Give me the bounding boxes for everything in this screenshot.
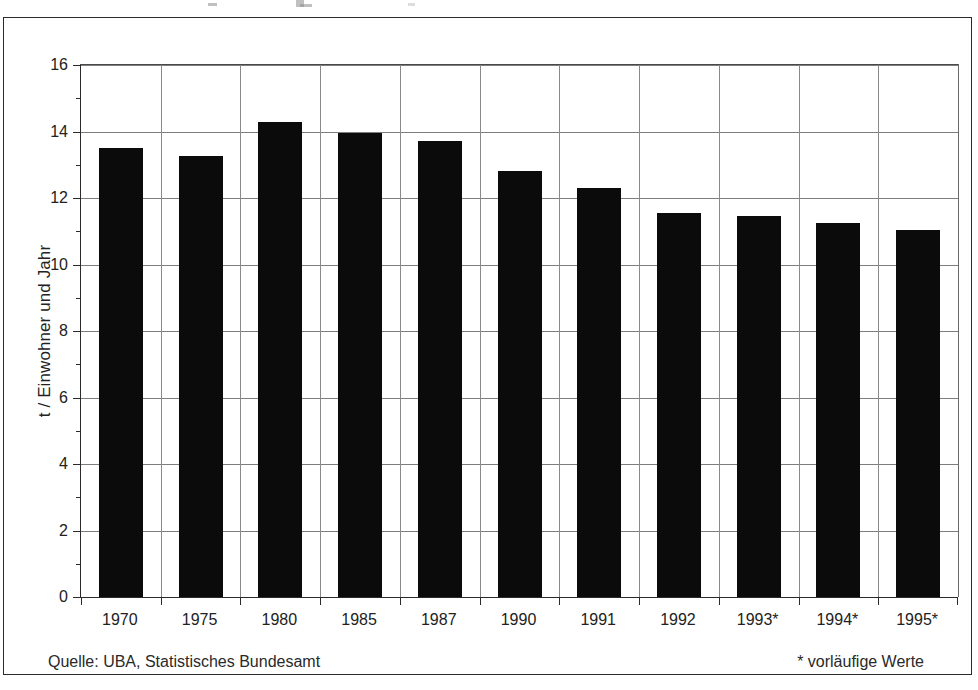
y-axis-tick bbox=[73, 398, 81, 399]
x-axis-tick-label: 1994* bbox=[798, 611, 878, 629]
y-axis-tick-label: 8 bbox=[22, 323, 68, 339]
x-axis-tick bbox=[559, 597, 560, 605]
provisional-note: * vorläufige Werte bbox=[797, 653, 924, 671]
y-axis-tick-label: 6 bbox=[22, 390, 68, 406]
y-axis-tick-label: 10 bbox=[22, 257, 68, 273]
gridline-vertical bbox=[480, 65, 481, 597]
bar bbox=[896, 230, 940, 597]
bar bbox=[338, 133, 382, 597]
gridline-vertical bbox=[719, 65, 720, 597]
gridline-horizontal bbox=[81, 65, 958, 66]
x-axis-tick-label: 1987 bbox=[399, 611, 479, 629]
y-axis-tick bbox=[73, 597, 81, 598]
y-axis-minor-tick bbox=[76, 165, 81, 166]
y-axis-minor-tick bbox=[76, 564, 81, 565]
bar bbox=[657, 213, 701, 597]
x-axis-tick-label: 1992 bbox=[638, 611, 718, 629]
bar bbox=[99, 148, 143, 597]
x-axis-tick-label: 1980 bbox=[239, 611, 319, 629]
gridline-vertical bbox=[799, 65, 800, 597]
y-axis-tick bbox=[73, 65, 81, 66]
plot-area bbox=[80, 65, 958, 598]
gridline-vertical bbox=[559, 65, 560, 597]
y-axis-tick bbox=[73, 198, 81, 199]
source-note: Quelle: UBA, Statistisches Bundesamt bbox=[48, 653, 320, 671]
y-axis-minor-tick bbox=[76, 231, 81, 232]
x-axis-tick bbox=[957, 597, 958, 605]
y-axis-minor-tick bbox=[76, 497, 81, 498]
gridline-vertical bbox=[240, 65, 241, 597]
x-axis-tick bbox=[400, 597, 401, 605]
y-axis-minor-tick bbox=[76, 364, 81, 365]
x-axis-tick bbox=[639, 597, 640, 605]
x-axis-tick bbox=[81, 597, 82, 605]
x-axis-tick-label: 1991 bbox=[558, 611, 638, 629]
x-axis-tick-label: 1975 bbox=[160, 611, 240, 629]
y-axis-minor-tick bbox=[76, 431, 81, 432]
y-axis-tick-label: 12 bbox=[22, 190, 68, 206]
y-axis-minor-tick bbox=[76, 98, 81, 99]
y-axis-tick-label: 2 bbox=[22, 523, 68, 539]
y-axis-tick-label: 0 bbox=[22, 589, 68, 605]
x-axis-tick bbox=[799, 597, 800, 605]
y-axis-tick-label: 16 bbox=[22, 57, 68, 73]
x-axis-tick bbox=[719, 597, 720, 605]
x-axis-tick bbox=[480, 597, 481, 605]
x-axis-tick-label: 1995* bbox=[877, 611, 957, 629]
x-axis-tick bbox=[161, 597, 162, 605]
bar bbox=[258, 122, 302, 597]
bar bbox=[577, 188, 621, 597]
y-axis-tick bbox=[73, 464, 81, 465]
bar bbox=[179, 156, 223, 597]
x-axis-tick bbox=[878, 597, 879, 605]
y-axis-tick bbox=[73, 265, 81, 266]
x-axis-tick-label: 1993* bbox=[718, 611, 798, 629]
y-axis-tick-label: 14 bbox=[22, 124, 68, 140]
y-axis-minor-tick bbox=[76, 298, 81, 299]
bar bbox=[418, 141, 462, 597]
figure-frame: t / Einwohner und Jahr Quelle: UBA, Stat… bbox=[3, 17, 972, 675]
x-axis-tick-label: 1970 bbox=[80, 611, 160, 629]
scan-artifact-top bbox=[0, 0, 978, 16]
bar bbox=[816, 223, 860, 597]
bar bbox=[737, 216, 781, 597]
y-axis-tick bbox=[73, 132, 81, 133]
gridline-vertical bbox=[161, 65, 162, 597]
y-axis-tick bbox=[73, 331, 81, 332]
x-axis-tick bbox=[240, 597, 241, 605]
y-axis-tick bbox=[73, 531, 81, 532]
gridline-vertical bbox=[320, 65, 321, 597]
bar bbox=[498, 171, 542, 597]
gridline-vertical bbox=[400, 65, 401, 597]
x-axis-tick-label: 1990 bbox=[479, 611, 559, 629]
gridline-vertical bbox=[639, 65, 640, 597]
y-axis-tick-label: 4 bbox=[22, 456, 68, 472]
x-axis-tick-label: 1985 bbox=[319, 611, 399, 629]
gridline-vertical bbox=[878, 65, 879, 597]
gridline-horizontal bbox=[81, 132, 958, 133]
x-axis-tick bbox=[320, 597, 321, 605]
